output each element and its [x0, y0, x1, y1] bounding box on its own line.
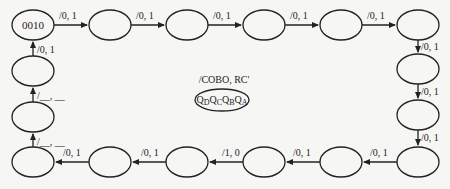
- legend-transition-format: /COBO, RC': [199, 74, 250, 85]
- state-s10: [243, 147, 285, 177]
- svg-text:/1, 0: /1, 0: [222, 147, 240, 158]
- transition-1: /0, 1: [54, 10, 87, 25]
- svg-text:/0, 1: /0, 1: [59, 10, 77, 21]
- transition-12: /0, 1: [133, 147, 166, 162]
- svg-text:/0, 1: /0, 1: [293, 147, 311, 158]
- transition-4: /0, 1: [285, 10, 318, 25]
- svg-text:/0, 1: /0, 1: [213, 10, 231, 21]
- transition-14: /__, __: [33, 134, 66, 147]
- transition-5: /0, 1: [362, 10, 395, 25]
- svg-text:/0, 1: /0, 1: [290, 10, 308, 21]
- state-s12: [89, 147, 131, 177]
- transition-11: /1, 0: [210, 147, 243, 162]
- transition-9: /0, 1: [364, 147, 397, 162]
- svg-text:/0, 1: /0, 1: [421, 132, 439, 143]
- svg-text:/0, 1: /0, 1: [367, 10, 385, 21]
- svg-text:/0, 1: /0, 1: [421, 86, 439, 97]
- state-s0: 0010: [12, 10, 54, 40]
- svg-text:/__, __: /__, __: [37, 136, 66, 147]
- transition-2: /0, 1: [131, 10, 164, 25]
- svg-text:/0, 1: /0, 1: [141, 147, 159, 158]
- state-s15: [12, 56, 54, 86]
- svg-text:/0, 1: /0, 1: [136, 10, 154, 21]
- state-s6: [397, 54, 439, 84]
- state-s8: [397, 147, 439, 177]
- svg-text:/0, 1: /0, 1: [421, 41, 439, 52]
- transition-3: /0, 1: [208, 10, 241, 25]
- transition-16: /0, 1: [33, 42, 55, 56]
- transition-13: /0, 1: [56, 147, 89, 162]
- legend-state-format: QDQCQBQA: [196, 94, 247, 107]
- state-s7: [397, 100, 439, 130]
- state-s1: [89, 10, 131, 40]
- transition-15: /__, __: [33, 88, 66, 102]
- svg-text:/0, 1: /0, 1: [63, 147, 81, 158]
- state-diagram: 0010 /0, 1 /0, 1 /0, 1 /0, 1 /0, 1 /0, 1: [0, 0, 450, 189]
- transition-7: /0, 1: [418, 84, 439, 98]
- state-s14: [12, 102, 54, 132]
- state-s13: [12, 147, 54, 177]
- svg-text:/0, 1: /0, 1: [370, 147, 388, 158]
- transition-8: /0, 1: [418, 130, 439, 145]
- legend: /COBO, RC' QDQCQBQA: [195, 74, 250, 111]
- state-s4: [320, 10, 362, 40]
- svg-text:/0, 1: /0, 1: [37, 44, 55, 55]
- transition-6: /0, 1: [418, 40, 439, 52]
- state-s9: [320, 147, 362, 177]
- transition-10: /0, 1: [287, 147, 320, 162]
- state-s5: [397, 10, 439, 40]
- state-s0-label: 0010: [22, 19, 45, 31]
- state-s3: [243, 10, 285, 40]
- svg-text:/__, __: /__, __: [37, 90, 66, 101]
- state-s2: [166, 10, 208, 40]
- state-s11: [166, 147, 208, 177]
